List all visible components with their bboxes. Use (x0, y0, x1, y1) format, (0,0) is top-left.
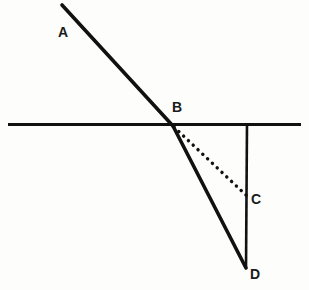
figure-canvas (0, 0, 309, 290)
dotted-ray-BC (174, 127, 247, 196)
point-label-b: B (172, 100, 182, 114)
geometry-diagram: A B C D (0, 0, 309, 290)
point-label-a: A (58, 25, 68, 39)
refracted-ray-BD (173, 126, 246, 268)
incident-ray-AB (62, 5, 173, 126)
point-label-d: D (250, 267, 260, 281)
point-label-c: C (251, 192, 261, 206)
